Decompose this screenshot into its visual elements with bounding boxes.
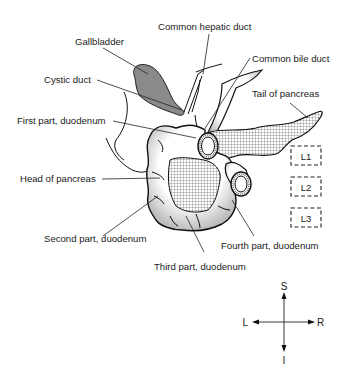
label-cystic-duct: Cystic duct — [44, 74, 91, 85]
label-common-hepatic-duct: Common hepatic duct — [158, 21, 252, 32]
vertebra-l3: L3 — [291, 208, 321, 227]
liver-edge — [106, 92, 150, 172]
compass-superior: S — [281, 281, 288, 292]
vertebra-label-l1: L1 — [301, 151, 312, 162]
vertebral-levels: L1 L2 L3 — [291, 146, 321, 227]
first-part-cut-end — [198, 133, 218, 159]
vertebra-l1: L1 — [291, 146, 321, 165]
anatomy-diagram: L1 L2 L3 Common hepatic duct Gallbladder… — [0, 0, 349, 374]
orientation-compass: S I L R — [242, 281, 324, 366]
vertebra-label-l2: L2 — [301, 182, 312, 193]
arrow-down-icon — [282, 345, 287, 352]
label-third-part-duodenum: Third part, duodenum — [154, 261, 246, 272]
label-tail-of-pancreas: Tail of pancreas — [252, 88, 319, 99]
label-fourth-part-duodenum: Fourth part, duodenum — [221, 240, 319, 251]
label-common-bile-duct: Common bile duct — [252, 53, 330, 64]
arrow-up-icon — [282, 292, 287, 299]
vertebra-label-l3: L3 — [301, 213, 312, 224]
arrow-left-icon — [252, 320, 259, 325]
vertebra-l2: L2 — [291, 177, 321, 196]
label-first-part-duodenum: First part, duodenum — [17, 115, 106, 126]
compass-right: R — [317, 317, 324, 328]
label-head-of-pancreas: Head of pancreas — [20, 173, 96, 184]
label-second-part-duodenum: Second part, duodenum — [44, 233, 146, 244]
label-gallbladder: Gallbladder — [75, 36, 125, 47]
arrow-right-icon — [308, 320, 315, 325]
compass-left: L — [242, 317, 248, 328]
compass-inferior: I — [283, 355, 286, 366]
